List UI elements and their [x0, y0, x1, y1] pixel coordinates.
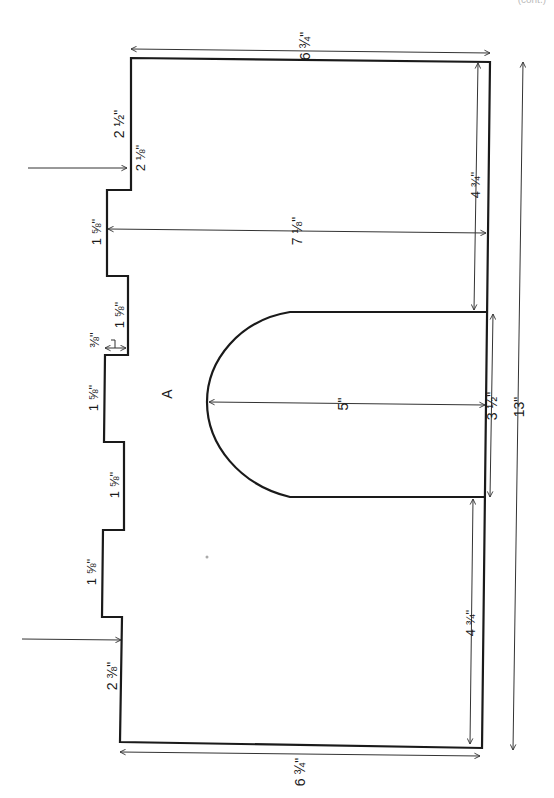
tab-2-label: 1 ⅝" [86, 384, 101, 411]
gap-2-label: 1 ⅝" [107, 471, 122, 498]
tab-3-label: 1 ⅝" [84, 558, 99, 585]
inner-width-label: 7 ⅛" [289, 217, 305, 245]
pattern-diagram: 6 ¾" 6 ¾" 13" 4 ¾" 4 ¾" 3 ½" 5" 7 ⅛" A 2… [0, 0, 554, 798]
tab-1-label: 1 ⅝" [89, 218, 104, 245]
pointer-arrow-bottom [22, 639, 121, 640]
scan-speck [206, 556, 209, 559]
lower-right-height-label: 4 ¾" [463, 609, 478, 636]
overall-height-label: 13" [511, 397, 527, 418]
top-width-label: 6 ¾" [297, 32, 313, 60]
arch-depth-label: 5" [335, 398, 351, 411]
notch-leader [111, 340, 115, 348]
top-left-segment-label: 2 ½" [111, 110, 127, 138]
notch-depth-label: ⅜" [87, 332, 102, 348]
bottom-left-segment-label: 2 ⅜" [104, 662, 120, 690]
bottom-width-label: 6 ¾" [292, 758, 308, 786]
upper-right-height-label: 4 ¾" [468, 171, 483, 198]
top-step-offset-label: 2 ⅛" [133, 144, 148, 171]
arch-opening-label: 3 ½" [484, 392, 500, 420]
gap-1-label: 1 ⅝" [112, 301, 127, 328]
piece-label-a: A [159, 389, 175, 399]
bottom-width-dimension [120, 752, 480, 756]
